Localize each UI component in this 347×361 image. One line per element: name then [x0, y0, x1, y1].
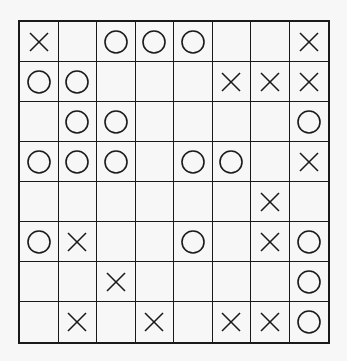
x-mark-icon	[220, 311, 242, 333]
cell-r7-c7[interactable]	[251, 262, 290, 302]
cell-r6-c5[interactable]	[174, 222, 213, 262]
cell-r4-c8[interactable]	[290, 142, 329, 182]
o-mark-icon	[103, 149, 129, 175]
cell-r1-c3[interactable]	[97, 22, 136, 62]
cell-r3-c7[interactable]	[251, 102, 290, 142]
o-mark-icon	[180, 229, 206, 255]
cell-r6-c7[interactable]	[251, 222, 290, 262]
cell-r3-c4[interactable]	[136, 102, 175, 142]
cell-r2-c2[interactable]	[59, 62, 98, 102]
cell-r1-c2[interactable]	[59, 22, 98, 62]
cell-r5-c4[interactable]	[136, 182, 175, 222]
x-mark-icon	[298, 151, 320, 173]
cell-r7-c2[interactable]	[59, 262, 98, 302]
cell-r8-c5[interactable]	[174, 302, 213, 342]
cell-r1-c7[interactable]	[251, 22, 290, 62]
x-mark-icon	[143, 311, 165, 333]
cell-r3-c6[interactable]	[213, 102, 252, 142]
o-mark-icon	[296, 269, 322, 295]
cell-r8-c4[interactable]	[136, 302, 175, 342]
cell-r4-c7[interactable]	[251, 142, 290, 182]
o-mark-icon	[296, 309, 322, 335]
cell-r5-c1[interactable]	[20, 182, 59, 222]
game-board	[18, 20, 330, 344]
cell-r4-c5[interactable]	[174, 142, 213, 182]
cell-r6-c4[interactable]	[136, 222, 175, 262]
cell-r7-c5[interactable]	[174, 262, 213, 302]
cell-r5-c3[interactable]	[97, 182, 136, 222]
cell-r6-c3[interactable]	[97, 222, 136, 262]
cell-r6-c1[interactable]	[20, 222, 59, 262]
x-mark-icon	[259, 311, 281, 333]
o-mark-icon	[26, 229, 52, 255]
cell-r3-c5[interactable]	[174, 102, 213, 142]
o-mark-icon	[103, 29, 129, 55]
cell-r8-c3[interactable]	[97, 302, 136, 342]
o-mark-icon	[180, 29, 206, 55]
o-mark-icon	[218, 149, 244, 175]
cell-r4-c2[interactable]	[59, 142, 98, 182]
cell-r4-c4[interactable]	[136, 142, 175, 182]
cell-r4-c6[interactable]	[213, 142, 252, 182]
o-mark-icon	[141, 29, 167, 55]
x-mark-icon	[259, 231, 281, 253]
o-mark-icon	[64, 149, 90, 175]
cell-r3-c1[interactable]	[20, 102, 59, 142]
o-mark-icon	[103, 109, 129, 135]
cell-r2-c6[interactable]	[213, 62, 252, 102]
cell-r6-c8[interactable]	[290, 222, 329, 262]
cell-r5-c7[interactable]	[251, 182, 290, 222]
cell-r5-c8[interactable]	[290, 182, 329, 222]
o-mark-icon	[26, 149, 52, 175]
cell-r8-c8[interactable]	[290, 302, 329, 342]
x-mark-icon	[66, 231, 88, 253]
x-mark-icon	[66, 311, 88, 333]
x-mark-icon	[298, 71, 320, 93]
cell-r1-c4[interactable]	[136, 22, 175, 62]
cell-r7-c1[interactable]	[20, 262, 59, 302]
cell-r8-c7[interactable]	[251, 302, 290, 342]
cell-r6-c2[interactable]	[59, 222, 98, 262]
cell-r8-c2[interactable]	[59, 302, 98, 342]
cell-r2-c3[interactable]	[97, 62, 136, 102]
cell-r5-c6[interactable]	[213, 182, 252, 222]
o-mark-icon	[64, 109, 90, 135]
cell-r2-c1[interactable]	[20, 62, 59, 102]
cell-r7-c6[interactable]	[213, 262, 252, 302]
cell-r8-c6[interactable]	[213, 302, 252, 342]
o-mark-icon	[296, 229, 322, 255]
x-mark-icon	[259, 191, 281, 213]
cell-r3-c2[interactable]	[59, 102, 98, 142]
cell-r5-c2[interactable]	[59, 182, 98, 222]
o-mark-icon	[180, 149, 206, 175]
cell-r1-c8[interactable]	[290, 22, 329, 62]
o-mark-icon	[64, 69, 90, 95]
cell-r8-c1[interactable]	[20, 302, 59, 342]
x-mark-icon	[105, 271, 127, 293]
cell-r2-c8[interactable]	[290, 62, 329, 102]
cell-r7-c8[interactable]	[290, 262, 329, 302]
cell-r2-c5[interactable]	[174, 62, 213, 102]
cell-r7-c4[interactable]	[136, 262, 175, 302]
x-mark-icon	[220, 71, 242, 93]
cell-r4-c3[interactable]	[97, 142, 136, 182]
cell-r1-c1[interactable]	[20, 22, 59, 62]
cell-r2-c4[interactable]	[136, 62, 175, 102]
cell-r4-c1[interactable]	[20, 142, 59, 182]
cell-r7-c3[interactable]	[97, 262, 136, 302]
x-mark-icon	[28, 31, 50, 53]
x-mark-icon	[298, 31, 320, 53]
cell-r5-c5[interactable]	[174, 182, 213, 222]
cell-r1-c5[interactable]	[174, 22, 213, 62]
o-mark-icon	[296, 109, 322, 135]
cell-r3-c8[interactable]	[290, 102, 329, 142]
cell-r3-c3[interactable]	[97, 102, 136, 142]
cell-r2-c7[interactable]	[251, 62, 290, 102]
cell-r1-c6[interactable]	[213, 22, 252, 62]
cell-r6-c6[interactable]	[213, 222, 252, 262]
o-mark-icon	[26, 69, 52, 95]
x-mark-icon	[259, 71, 281, 93]
